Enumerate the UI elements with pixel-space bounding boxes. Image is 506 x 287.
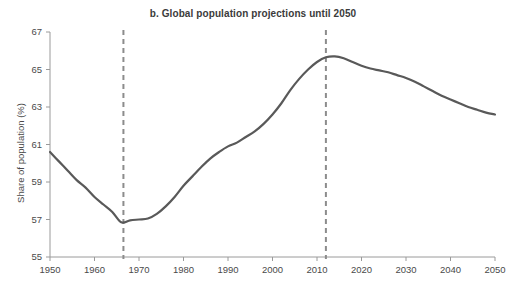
plot-area: 55575961636567 1950196019701980199020002…: [0, 0, 506, 287]
y-tick-label: 55: [31, 251, 42, 262]
x-tick-label: 2020: [351, 264, 372, 275]
series-line: [50, 56, 495, 222]
y-tick-label: 67: [31, 26, 42, 37]
x-tick-label: 1950: [39, 264, 60, 275]
y-tick-label: 59: [31, 176, 42, 187]
x-tick-label: 1970: [128, 264, 149, 275]
x-tick-label: 2000: [262, 264, 283, 275]
y-tick-label: 61: [31, 139, 42, 150]
x-tick-label: 2050: [484, 264, 505, 275]
chart-container: b. Global population projections until 2…: [0, 0, 506, 287]
x-tick-label: 1990: [217, 264, 238, 275]
annotation-lines: [123, 30, 325, 259]
x-axis: 1950196019701980199020002010202020302040…: [39, 257, 505, 275]
y-axis: 55575961636567: [31, 26, 50, 262]
y-tick-label: 57: [31, 214, 42, 225]
x-tick-label: 2010: [306, 264, 327, 275]
y-tick-label: 65: [31, 64, 42, 75]
x-tick-label: 1980: [173, 264, 194, 275]
data-series: [50, 56, 495, 222]
x-tick-label: 2030: [395, 264, 416, 275]
x-tick-label: 2040: [440, 264, 461, 275]
y-tick-label: 63: [31, 101, 42, 112]
x-tick-label: 1960: [84, 264, 105, 275]
